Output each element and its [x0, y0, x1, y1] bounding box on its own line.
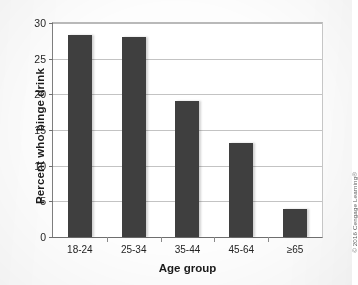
bar — [229, 143, 253, 237]
bar-slot — [161, 23, 215, 237]
bars-group — [53, 23, 322, 237]
x-tick-label: ≥65 — [287, 244, 304, 255]
copyright-notice: © 2016 Cengage Learning® — [351, 172, 358, 253]
x-tick-label: 18-24 — [67, 244, 93, 255]
y-tick-mark — [49, 237, 53, 238]
x-tick-mark — [214, 237, 215, 242]
bar-slot — [107, 23, 161, 237]
x-tick-label: 25-34 — [121, 244, 147, 255]
x-tick-mark — [268, 237, 269, 242]
y-tick-label: 5 — [40, 195, 46, 207]
y-tick-label: 0 — [40, 231, 46, 243]
bar — [122, 37, 146, 237]
y-tick-label: 10 — [34, 160, 46, 172]
x-tick-mark — [161, 237, 162, 242]
y-tick-label: 20 — [34, 88, 46, 100]
bar-slot — [214, 23, 268, 237]
bar — [68, 35, 92, 237]
x-tick-mark — [107, 237, 108, 242]
bar-slot — [53, 23, 107, 237]
plot-area: 051015202530 18-2425-3435-4445-64≥65 — [52, 22, 323, 238]
bar — [283, 209, 307, 237]
y-tick-label: 30 — [34, 17, 46, 29]
x-axis-title: Age group — [52, 262, 323, 274]
y-tick-label: 25 — [34, 53, 46, 65]
y-tick-label: 15 — [34, 124, 46, 136]
bar-slot — [268, 23, 322, 237]
x-tick-label: 35-44 — [175, 244, 201, 255]
x-tick-label: 45-64 — [229, 244, 255, 255]
bar — [175, 101, 199, 237]
